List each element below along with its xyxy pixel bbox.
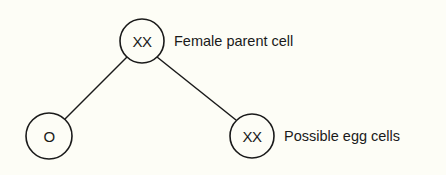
right-egg-cell-label: XX bbox=[242, 128, 261, 145]
parent-cell-label: XX bbox=[132, 33, 151, 50]
edge-parent-to-right-egg bbox=[157, 57, 236, 120]
diagram-canvas bbox=[0, 0, 446, 175]
parent-cell-caption: Female parent cell bbox=[174, 33, 293, 49]
egg-cells-caption: Possible egg cells bbox=[284, 128, 400, 144]
left-egg-cell-label: O bbox=[43, 128, 54, 145]
edge-parent-to-left-egg bbox=[65, 57, 127, 119]
